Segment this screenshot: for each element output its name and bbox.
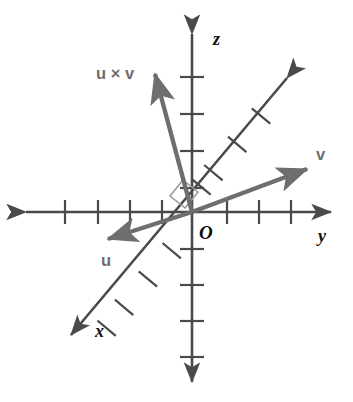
vector-v-line [192, 169, 307, 212]
vector-v [192, 169, 307, 212]
axis-x-tick [139, 271, 157, 286]
vector-u-line [108, 212, 192, 239]
vector-label-u-cross-v: u × v [96, 64, 135, 82]
axis-x-tick [115, 300, 133, 315]
origin-label: O [199, 222, 213, 243]
axis-label-y: y [316, 226, 327, 246]
axis-x-tick [163, 243, 181, 258]
vector-u [108, 212, 192, 239]
axis-x-line [71, 78, 287, 335]
axis-x [71, 78, 287, 336]
coordinate-system-diagram: u × v v u z y x O [0, 0, 353, 402]
axis-label-x: x [94, 321, 104, 341]
axis-label-z: z [212, 29, 220, 49]
vector-label-u: u [101, 251, 111, 269]
vector-label-v: v [316, 145, 326, 163]
vector-cross-product-figure: u × v v u z y x O [0, 0, 353, 402]
